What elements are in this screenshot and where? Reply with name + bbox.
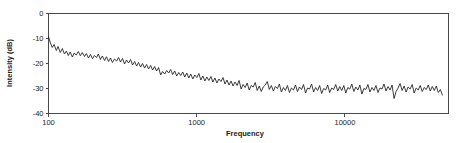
- y-axis-tick-labels: 0-10-20-30-40: [33, 9, 44, 118]
- data-series-group: [49, 37, 443, 99]
- figure-container: 0-10-20-30-40 100100010000 Frequency Int…: [0, 0, 469, 143]
- y-axis-title: Intensity (dB): [5, 39, 14, 87]
- y-tick-label: -10: [33, 34, 44, 43]
- y-tick-label: -20: [33, 59, 44, 68]
- y-tick-label: -30: [33, 84, 44, 93]
- x-axis-tick-labels: 100100010000: [42, 118, 355, 127]
- y-tick-label: 0: [39, 9, 43, 18]
- x-tick-label: 10000: [334, 118, 355, 127]
- axis-frame: [49, 14, 449, 114]
- spectrum-chart: 0-10-20-30-40 100100010000 Frequency Int…: [0, 0, 469, 143]
- x-axis-ticks: [49, 114, 345, 118]
- x-tick-label: 100: [42, 118, 55, 127]
- x-tick-label: 1000: [188, 118, 205, 127]
- plot-frame: [49, 14, 449, 114]
- spectrum-trace: [49, 37, 443, 99]
- x-axis-title: Frequency: [226, 129, 265, 138]
